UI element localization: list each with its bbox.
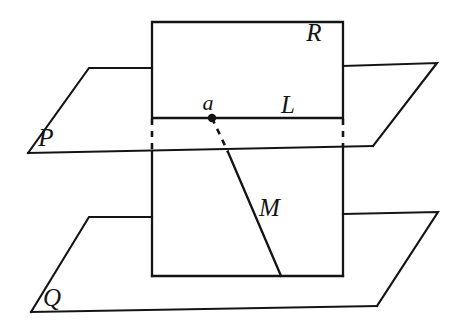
plane-p-group [28,63,437,153]
rectangle-r-lower [152,147,343,276]
label-plane-q: Q [43,284,61,311]
label-point-a: a [203,90,214,115]
plane-q-group [31,212,438,312]
label-plane-p: P [37,124,53,151]
label-line-l: L [280,91,295,118]
plane-p-right-wing [343,63,437,146]
geometry-diagram-root: P Q R L M a [0,0,464,334]
plane-q-right-wing [343,212,438,306]
plane-p-front-edge [28,146,373,153]
line-m-hidden-segment [212,118,228,152]
label-line-m: M [258,194,281,221]
label-region-r: R [305,19,321,46]
geometry-figure: P Q R L M a [0,0,464,334]
plane-q-front-edge [31,306,377,312]
point-a-dot [208,114,216,122]
